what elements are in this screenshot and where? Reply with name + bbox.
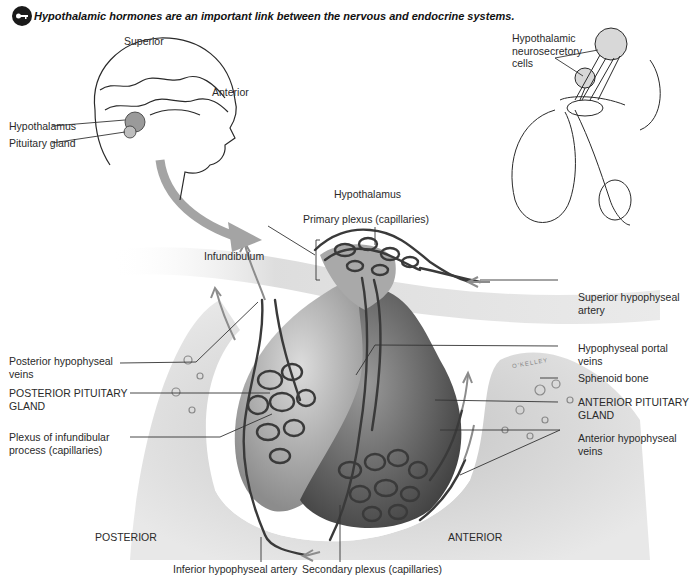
neurosecretory-cells-label: Hypothalamic neurosecretory cells xyxy=(512,32,582,70)
anterior-orientation-label: ANTERIOR xyxy=(448,531,502,544)
secondary-plexus-label: Secondary plexus (capillaries) xyxy=(302,563,442,576)
posterior-pituitary-label: POSTERIOR PITUITARY GLAND xyxy=(9,387,128,412)
superior-label: Superior xyxy=(124,35,164,48)
hypophyseal-portal-veins-label: Hypophyseal portal veins xyxy=(578,342,668,367)
anterior-label: Anterior xyxy=(212,86,249,99)
inferior-hypophyseal-artery-label: Inferior hypophyseal artery xyxy=(173,563,297,576)
figure-caption: Hypothalamic hormones are an important l… xyxy=(34,10,514,22)
pituitary-head-marker xyxy=(124,126,136,138)
key-icon xyxy=(12,6,32,26)
hypothalamus-label: Hypothalamus xyxy=(334,188,401,201)
superior-hypophyseal-artery-label: Superior hypophyseal artery xyxy=(578,291,680,316)
posterior-hypophyseal-veins-label: Posterior hypophyseal veins xyxy=(9,355,113,380)
pituitary-gland-label: Pituitary gland xyxy=(9,137,76,150)
anterior-hypophyseal-veins-label: Anterior hypophyseal veins xyxy=(578,432,677,457)
sphenoid-bone-label: Sphenoid bone xyxy=(578,372,649,385)
primary-plexus-label: Primary plexus (capillaries) xyxy=(303,213,429,226)
infundibular-plexus-label: Plexus of infundibular process (capillar… xyxy=(9,431,109,456)
anterior-pituitary-label: ANTERIOR PITUITARY GLAND xyxy=(578,396,689,421)
hypothalamus-head-label: Hypothalamus xyxy=(9,120,76,133)
posterior-orientation-label: POSTERIOR xyxy=(95,531,157,544)
infundibulum-label: Infundibulum xyxy=(204,250,264,263)
